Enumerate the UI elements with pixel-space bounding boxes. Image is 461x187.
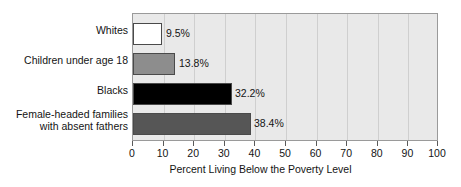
x-axis-title: Percent Living Below the Poverty Level	[169, 163, 351, 175]
gridline-80	[378, 14, 379, 140]
bar-value-blacks: 32.2%	[235, 88, 265, 99]
tick-label-30: 30	[218, 147, 230, 159]
tick-90	[407, 141, 408, 146]
bar-value-children-under-18: 13.8%	[179, 58, 209, 69]
category-label-whites: Whites	[0, 25, 128, 37]
category-axis-labels: Whites Children under age 18 Blacks Fema…	[0, 13, 128, 141]
tick-40	[254, 141, 255, 146]
tick-70	[346, 141, 347, 146]
tick-label-40: 40	[249, 147, 261, 159]
gridline-70	[347, 14, 348, 140]
bar-children-under-18	[133, 53, 175, 75]
gridline-60	[317, 14, 318, 140]
bar-blacks	[133, 83, 232, 105]
x-axis-title-container: Percent Living Below the Poverty Level	[0, 163, 461, 175]
category-label-blacks: Blacks	[0, 85, 128, 97]
tick-10	[163, 141, 164, 146]
bar-value-whites: 9.5%	[166, 28, 190, 39]
tick-60	[316, 141, 317, 146]
tick-label-10: 10	[157, 147, 169, 159]
tick-label-90: 90	[402, 147, 414, 159]
gridline-90	[408, 14, 409, 140]
tick-50	[285, 141, 286, 146]
tick-100	[437, 141, 438, 146]
bar-value-female-headed-families: 38.4%	[254, 118, 284, 129]
tick-20	[193, 141, 194, 146]
tick-80	[377, 141, 378, 146]
category-label-children-under-18: Children under age 18	[0, 55, 128, 67]
tick-label-20: 20	[187, 147, 199, 159]
gridline-50	[286, 14, 287, 140]
bar-whites	[133, 23, 162, 45]
tick-label-80: 80	[371, 147, 383, 159]
tick-label-60: 60	[310, 147, 322, 159]
category-label-female-headed-families: Female-headed families with absent fathe…	[0, 109, 128, 132]
tick-label-70: 70	[340, 147, 352, 159]
bar-female-headed-families	[133, 113, 251, 135]
tick-label-100: 100	[428, 147, 446, 159]
plot-area: 9.5% 13.8% 32.2% 38.4%	[132, 13, 438, 141]
tick-0	[132, 141, 133, 146]
x-axis-tick-labels: 0 10 20 30 40 50 60 70 80 90 100	[0, 147, 461, 161]
poverty-level-bar-chart: Whites Children under age 18 Blacks Fema…	[0, 0, 461, 187]
tick-label-0: 0	[129, 147, 135, 159]
tick-30	[224, 141, 225, 146]
tick-label-50: 50	[279, 147, 291, 159]
